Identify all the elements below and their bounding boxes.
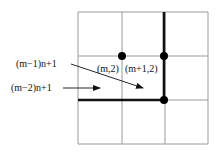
label-node-m-2: (m,2) (97, 63, 119, 75)
node-m-plus-1-2 (160, 52, 168, 60)
node-m-2 (118, 52, 126, 60)
label-m-minus-1-n-plus-1: (m−1)n+1 (16, 58, 57, 70)
label-node-m-plus-1-2: (m+1,2) (125, 63, 158, 75)
nodes (118, 52, 168, 104)
label-m-minus-2-n-plus-1: (m−2)n+1 (11, 82, 52, 94)
grid-lines (78, 12, 208, 144)
node-corner (160, 96, 168, 104)
grid-diagram: (m−1)n+1 (m−2)n+1 (m,2) (m+1,2) (0, 0, 217, 155)
